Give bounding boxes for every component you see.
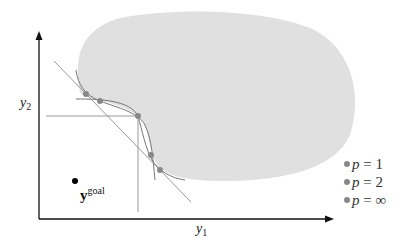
goal-point <box>72 178 78 184</box>
legend-item-p2: p = 2 <box>344 173 386 191</box>
legend-var: p <box>352 156 360 172</box>
feasible-region <box>78 11 355 181</box>
legend-dot-icon <box>344 197 350 203</box>
pareto-point <box>157 167 163 173</box>
goal-label-sup: goal <box>88 185 105 196</box>
legend: p = 1 p = 2 p = ∞ <box>344 155 386 209</box>
y2-label-sub: 2 <box>26 101 31 112</box>
pareto-point <box>97 98 103 104</box>
legend-item-p1: p = 1 <box>344 155 386 173</box>
pareto-point <box>83 91 89 97</box>
pareto-point <box>148 152 154 158</box>
legend-val: ∞ <box>375 192 386 208</box>
legend-val: 2 <box>375 174 383 190</box>
legend-item-pinf: p = ∞ <box>344 191 386 209</box>
legend-eq: = <box>360 156 376 172</box>
legend-dot-icon <box>344 179 350 185</box>
x-axis-arrow-icon <box>325 216 334 223</box>
legend-text-pinf: p = ∞ <box>352 192 386 209</box>
y-axis-arrow-icon <box>36 31 43 40</box>
goal-label: ygoal <box>80 186 105 203</box>
legend-text-p1: p = 1 <box>352 156 383 173</box>
legend-var: p <box>352 192 360 208</box>
legend-var: p <box>352 174 360 190</box>
goal-label-base: y <box>80 187 88 203</box>
legend-eq: = <box>360 192 376 208</box>
y1-label-sub: 1 <box>202 227 207 238</box>
legend-val: 1 <box>375 156 383 172</box>
legend-text-p2: p = 2 <box>352 174 383 191</box>
legend-eq: = <box>360 174 376 190</box>
pareto-point <box>135 113 141 119</box>
y2-axis-label: y2 <box>20 96 31 112</box>
legend-dot-icon <box>344 161 350 167</box>
y1-axis-label: y1 <box>196 222 207 238</box>
